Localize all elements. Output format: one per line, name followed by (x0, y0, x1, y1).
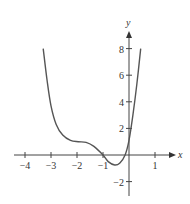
y-tick-label: 8 (119, 44, 124, 55)
chart: −4−3−2−11 8642−2 x y (0, 0, 190, 204)
x-tick-label: −1 (98, 160, 109, 171)
y-tick-label: −2 (113, 177, 124, 188)
x-axis-arrow-icon (169, 152, 176, 158)
x-tick-label: −3 (46, 160, 57, 171)
x-tick-label: 1 (153, 160, 158, 171)
y-tick-label: 2 (119, 123, 124, 134)
y-tick-label: 4 (119, 97, 124, 108)
x-axis-label: x (177, 149, 183, 160)
x-tick-label: −4 (20, 160, 31, 171)
y-axis-arrow-icon (126, 31, 132, 38)
x-tick-label: −2 (72, 160, 83, 171)
y-axis-label: y (125, 17, 131, 28)
function-curve (43, 49, 141, 165)
y-tick-label: 6 (119, 70, 124, 81)
